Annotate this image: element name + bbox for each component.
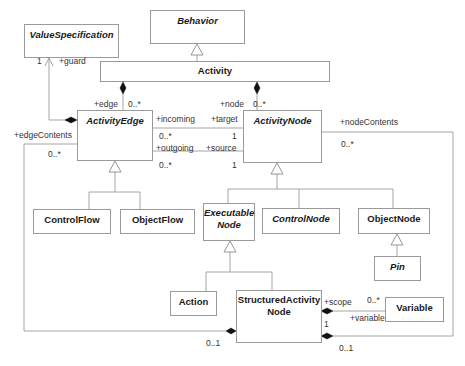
class-activity[interactable]: Activity bbox=[100, 61, 330, 82]
label-edge-mult: 0..* bbox=[128, 99, 141, 109]
label-edge-contents-role: +edgeContents bbox=[14, 130, 72, 140]
class-executable-node[interactable]: Executable Node bbox=[203, 203, 255, 241]
label-edge-role: +edge bbox=[94, 99, 118, 109]
label-target-role: +target bbox=[211, 114, 238, 124]
label-variable-mult: 0..* bbox=[367, 295, 380, 305]
label-node-contents-mult: 0..* bbox=[341, 139, 354, 149]
class-value-specification[interactable]: ValueSpecification bbox=[24, 24, 119, 58]
class-activity-node[interactable]: ActivityNode bbox=[243, 110, 322, 163]
class-executable-node-line2: Node bbox=[204, 219, 254, 231]
class-object-node[interactable]: ObjectNode bbox=[358, 208, 430, 234]
class-control-flow[interactable]: ControlFlow bbox=[33, 209, 111, 234]
label-outgoing-role: +outgoing bbox=[156, 143, 194, 153]
label-node-mult: 0..* bbox=[253, 99, 266, 109]
class-activity-edge[interactable]: ActivityEdge bbox=[77, 110, 153, 161]
class-behavior[interactable]: Behavior bbox=[150, 10, 245, 44]
label-scope-role: +scope bbox=[324, 297, 352, 307]
class-structured-activity-node[interactable]: StructuredActivity Node bbox=[236, 290, 322, 343]
class-variable[interactable]: Variable bbox=[385, 297, 444, 322]
label-guard-mult: 1 bbox=[37, 56, 42, 66]
label-incoming-role: +incoming bbox=[156, 114, 195, 124]
label-node-contents-role: +nodeContents bbox=[340, 117, 398, 127]
label-edge-owner-mult: 0..1 bbox=[206, 338, 220, 348]
label-outgoing-mult: 0..* bbox=[159, 160, 172, 170]
label-edge-contents-mult: 0..* bbox=[48, 149, 61, 159]
label-node-role: +node bbox=[220, 99, 244, 109]
class-control-node[interactable]: ControlNode bbox=[262, 208, 340, 234]
label-scope-mult: 1 bbox=[324, 319, 329, 329]
label-incoming-mult: 0..* bbox=[159, 131, 172, 141]
class-object-flow[interactable]: ObjectFlow bbox=[120, 209, 195, 234]
class-structured-activity-node-line1: StructuredActivity bbox=[237, 294, 321, 306]
label-source-mult: 1 bbox=[232, 160, 237, 170]
class-executable-node-line1: Executable bbox=[204, 207, 254, 219]
label-target-mult: 1 bbox=[232, 131, 237, 141]
class-action[interactable]: Action bbox=[170, 291, 217, 316]
label-guard-role: +guard bbox=[59, 56, 86, 66]
class-pin[interactable]: Pin bbox=[374, 256, 421, 281]
label-source-role: +source bbox=[206, 143, 236, 153]
label-node-owner-mult: 0..1 bbox=[339, 343, 353, 353]
label-variable-role: +variable bbox=[350, 313, 385, 323]
class-structured-activity-node-line2: Node bbox=[237, 306, 321, 318]
